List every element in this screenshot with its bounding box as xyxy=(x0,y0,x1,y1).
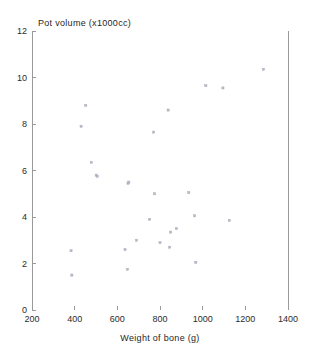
data-point-marker xyxy=(85,104,87,106)
data-point-marker xyxy=(154,193,156,195)
data-point-marker xyxy=(170,231,172,233)
x-tick-label: 800 xyxy=(152,314,167,324)
data-point-marker xyxy=(228,219,230,221)
data-point-marker xyxy=(71,274,73,276)
data-point-marker xyxy=(222,87,224,89)
data-point-marker xyxy=(188,191,190,193)
data-point-marker xyxy=(126,268,128,270)
data-point-marker xyxy=(262,68,264,70)
data-point-marker xyxy=(135,239,137,241)
data-point-marker xyxy=(169,246,171,248)
y-tick-label: 4 xyxy=(22,212,27,222)
scatter-plot-figure: 024681012 200400600800100012001400 Pot v… xyxy=(0,0,311,362)
data-point-marker xyxy=(167,109,169,111)
x-axis-title: Weight of bone (g) xyxy=(120,333,199,343)
data-point-marker xyxy=(128,181,130,183)
y-tick-label: 12 xyxy=(17,26,27,36)
x-tick-label: 1000 xyxy=(193,314,213,324)
data-point-marker xyxy=(96,175,98,177)
y-tick-label: 8 xyxy=(22,119,27,129)
x-tick-label: 200 xyxy=(24,314,39,324)
data-point-marker xyxy=(159,241,161,243)
data-markers-group xyxy=(70,68,265,276)
data-point-marker xyxy=(205,85,207,87)
data-point-marker xyxy=(195,261,197,263)
data-point-marker xyxy=(124,248,126,250)
data-point-marker xyxy=(175,228,177,230)
axes-group xyxy=(32,31,288,310)
plot-title: Pot volume (x1000cc) xyxy=(38,18,131,28)
y-tick-label: 2 xyxy=(22,259,27,269)
data-point-marker xyxy=(80,125,82,127)
y-tick-label: 10 xyxy=(17,73,27,83)
data-point-marker xyxy=(90,161,92,163)
y-axis-ticks: 024681012 xyxy=(17,26,36,315)
x-tick-label: 400 xyxy=(67,314,82,324)
data-point-marker xyxy=(148,218,150,220)
x-axis-ticks: 200400600800100012001400 xyxy=(24,306,298,324)
x-tick-label: 600 xyxy=(110,314,125,324)
data-point-marker xyxy=(193,215,195,217)
x-tick-label: 1200 xyxy=(235,314,255,324)
data-point-marker xyxy=(70,250,72,252)
data-point-marker xyxy=(153,131,155,133)
y-tick-label: 6 xyxy=(22,166,27,176)
x-tick-label: 1400 xyxy=(278,314,298,324)
plot-canvas: 024681012 200400600800100012001400 Pot v… xyxy=(0,0,311,362)
